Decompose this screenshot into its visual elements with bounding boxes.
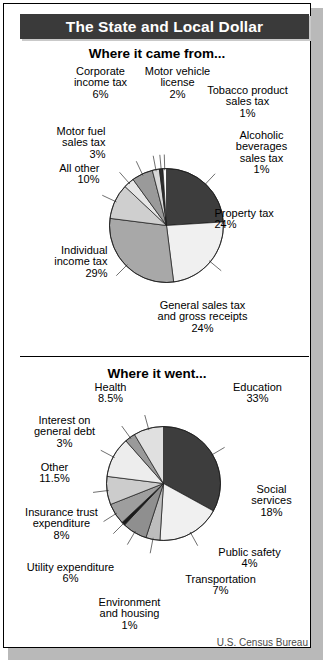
leader-line [153, 156, 156, 171]
infographic-frame: The State and Local Dollar Where it came… [3, 3, 311, 648]
credit-text: U.S. Census Bureau [217, 637, 308, 648]
leader-line [113, 523, 124, 534]
pie-slice-label: Public safety 4% [202, 547, 298, 570]
pie-slice-label: Other 11.5% [24, 462, 86, 485]
infographic-root: The State and Local Dollar Where it came… [0, 0, 326, 663]
leader-line [160, 155, 161, 171]
pie-slice-label: Individual income tax 29% [16, 245, 108, 280]
leader-line [101, 450, 115, 457]
leader-line [127, 531, 135, 545]
pie-slice-label: Health 8.5% [78, 382, 144, 405]
leader-line [211, 447, 225, 455]
pie-slice[interactable] [167, 222, 224, 282]
pie-slice-label: All other 10% [10, 163, 100, 186]
pie-slice-label: Alcoholic beverages sales tax 1% [222, 130, 302, 176]
leader-line [136, 161, 143, 175]
leader-line [93, 490, 109, 492]
pie-slice-label: Motor fuel sales tax 3% [20, 126, 106, 161]
pie-slice-label: Social services 18% [236, 484, 308, 519]
pie-slice-label: Environment and housing 1% [82, 597, 178, 632]
leader-line [116, 265, 127, 276]
pie-slice-label: Education 33% [212, 382, 304, 405]
leader-line [150, 538, 153, 553]
leader-line [120, 172, 130, 184]
pie-slice-label: Property tax 24% [215, 208, 320, 231]
pie-slice-label: Utility expenditure 6% [16, 562, 126, 585]
pie-slice-label: Tobacco product sales tax 1% [202, 85, 294, 120]
pie-chart-1 [102, 155, 223, 283]
pie-slice-label: Insurance trust expenditure 8% [10, 507, 114, 542]
leader-line [102, 195, 116, 202]
pie-slice-label: Corporate income tax 6% [62, 66, 140, 101]
leader-line [204, 174, 215, 185]
leader-line [145, 415, 149, 430]
leader-line [122, 426, 131, 439]
leader-line [190, 532, 198, 546]
pie-slice-label: Transportation 7% [172, 574, 270, 597]
leader-line [209, 261, 221, 271]
pie-slice-label: Interest on general debt 3% [16, 415, 114, 450]
pie-slice-label: General sales tax and gross receipts 24% [138, 300, 268, 335]
